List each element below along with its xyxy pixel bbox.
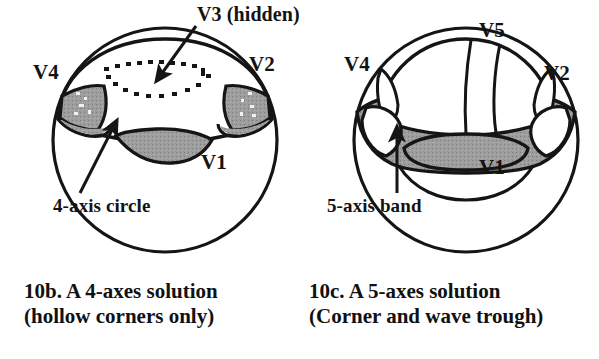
- caption-line-1-10c: 10c. A 5-axes solution: [309, 279, 500, 304]
- figure-root: V4 V3 (hidden) V2 V1 4-axis circle 10b. …: [0, 0, 599, 359]
- vertex-label-v2-10c: V2: [544, 63, 570, 84]
- vertex-label-v2-10b: V2: [249, 54, 275, 75]
- annotation-label-4-axis-circle: 4-axis circle: [53, 196, 151, 215]
- vertex-label-v1-10c: V1: [479, 157, 505, 178]
- vertex-label-v4-10c: V4: [344, 54, 370, 75]
- caption-line-1-10b: 10b. A 4-axes solution: [24, 279, 218, 304]
- vertex-label-v3-10b: V3 (hidden): [197, 4, 300, 24]
- panel-10b-drawing: [53, 26, 277, 252]
- vertex-region-v1-10b: [116, 129, 212, 163]
- annotation-label-5-axis-band: 5-axis band: [327, 196, 422, 215]
- vertex-label-v5-10c: V5: [479, 20, 505, 41]
- caption-line-2-10c: (Corner and wave trough): [309, 304, 543, 329]
- caption-line-2-10b: (hollow corners only): [24, 304, 214, 329]
- vertex-label-v4-10b: V4: [33, 62, 59, 83]
- vertex-label-v1-10b: V1: [201, 152, 227, 173]
- wave-trough-lobe-10c: [404, 134, 528, 170]
